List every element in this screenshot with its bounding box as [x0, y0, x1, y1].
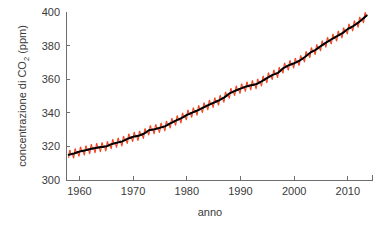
y-tick-label: 300: [42, 174, 60, 186]
annual-trend-line: [69, 16, 367, 155]
tick-marks: [66, 46, 348, 180]
y-tick-label: 360: [42, 73, 60, 85]
chart-canvas: 196019701980199020002010 300320340360380…: [0, 0, 384, 227]
x-tick-label: 1980: [175, 185, 199, 197]
x-tick-label: 1990: [228, 185, 252, 197]
x-tick-label: 2000: [282, 185, 306, 197]
y-axis-label-suffix: (ppm): [16, 25, 28, 57]
svg-text:concentrazione di CO2 (ppm): concentrazione di CO2 (ppm): [16, 25, 31, 167]
co2-concentration-chart: 196019701980199020002010 300320340360380…: [0, 0, 384, 227]
y-tick-label: 400: [42, 6, 60, 18]
x-tick-label: 2010: [336, 185, 360, 197]
y-tick-labels: 300320340360380400: [42, 6, 60, 186]
y-tick-label: 340: [42, 107, 60, 119]
y-axis-label: concentrazione di CO2 (ppm): [16, 25, 31, 167]
y-tick-label: 320: [42, 140, 60, 152]
y-axis-label-prefix: concentrazione di CO: [16, 61, 28, 167]
axis-lines: [66, 12, 372, 180]
x-tick-label: 1960: [67, 185, 91, 197]
monthly-series-line: [69, 13, 367, 159]
x-tick-label: 1970: [121, 185, 145, 197]
x-tick-labels: 196019701980199020002010: [67, 185, 360, 197]
x-axis-label: anno: [198, 206, 222, 218]
y-tick-label: 380: [42, 40, 60, 52]
